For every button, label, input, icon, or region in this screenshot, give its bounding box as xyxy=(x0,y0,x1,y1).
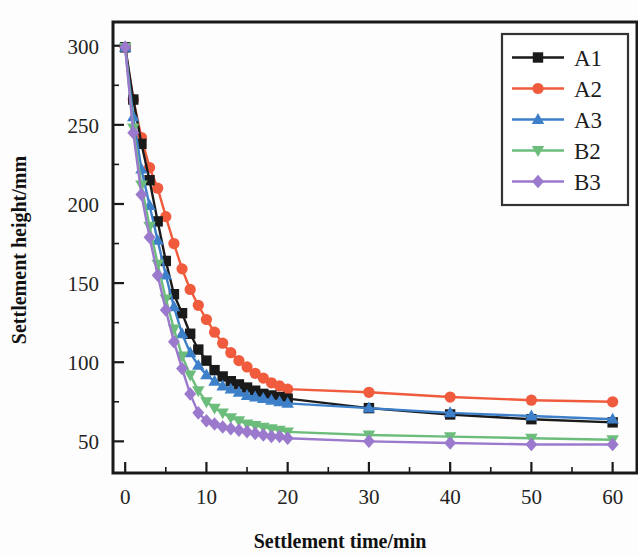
data-point-circle xyxy=(445,391,456,402)
chart-container: 010203040506050100150200250300 A1A2A3B2B… xyxy=(0,0,638,555)
data-point-circle xyxy=(526,395,537,406)
data-point-diamond xyxy=(363,435,375,449)
legend-label-A2: A2 xyxy=(574,77,602,102)
y-tick-label: 100 xyxy=(68,351,100,375)
legend-label-B3: B3 xyxy=(574,170,601,195)
legend-label-A1: A1 xyxy=(574,46,602,71)
data-point-circle xyxy=(363,387,374,398)
settlement-curve-chart: 010203040506050100150200250300 A1A2A3B2B… xyxy=(0,0,638,555)
data-point-circle xyxy=(168,238,179,249)
x-axis-title: Settlement time/min xyxy=(254,530,427,552)
x-tick-label: 10 xyxy=(196,485,217,509)
data-point-circle xyxy=(201,314,212,325)
data-point-diamond xyxy=(444,436,456,450)
y-tick-label: 150 xyxy=(68,272,100,296)
x-tick-label: 30 xyxy=(358,485,379,509)
x-tick-label: 50 xyxy=(521,485,542,509)
data-point-circle xyxy=(225,347,236,358)
y-tick-label: 300 xyxy=(68,35,100,59)
y-tick-label: 250 xyxy=(68,114,100,138)
data-point-diamond xyxy=(525,438,537,452)
data-point-circle xyxy=(209,327,220,338)
legend-label-B2: B2 xyxy=(574,139,601,164)
y-axis-title: Settlement height/mm xyxy=(8,156,31,345)
data-point-circle xyxy=(193,300,204,311)
x-tick-label: 40 xyxy=(440,485,461,509)
x-tick-label: 0 xyxy=(120,485,131,509)
y-tick-label: 200 xyxy=(68,193,100,217)
data-point-diamond xyxy=(282,431,294,445)
x-tick-label: 20 xyxy=(277,485,298,509)
data-point-square xyxy=(201,355,211,365)
data-point-circle xyxy=(185,284,196,295)
y-tick-label: 50 xyxy=(78,430,99,454)
data-point-square xyxy=(533,52,543,62)
data-point-square xyxy=(193,344,203,354)
x-tick-label: 60 xyxy=(602,485,623,509)
data-point-circle xyxy=(217,338,228,349)
data-point-circle xyxy=(532,83,543,94)
data-point-circle xyxy=(176,263,187,274)
chart-legend[interactable]: A1A2A3B2B3 xyxy=(502,34,628,205)
data-point-circle xyxy=(607,396,618,407)
legend-label-A3: A3 xyxy=(574,108,602,133)
